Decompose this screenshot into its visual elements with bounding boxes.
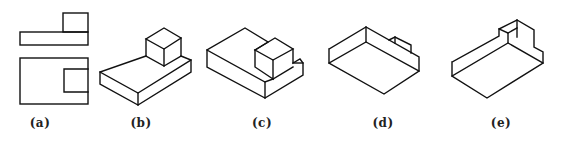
top-view-outline xyxy=(20,58,88,104)
figure-b-label: (b) xyxy=(130,116,151,130)
block-top-face xyxy=(255,38,293,60)
figure-a-drawing xyxy=(20,13,88,104)
figure-c-drawing xyxy=(207,28,303,98)
figure-e-label: (e) xyxy=(491,116,512,130)
block-top-edge xyxy=(508,28,517,33)
top-view-inner-square xyxy=(64,69,88,92)
figure-d-drawing xyxy=(329,27,419,94)
block-inner-edges xyxy=(499,29,508,43)
slab-outline xyxy=(100,56,191,105)
block-right-lower xyxy=(273,67,293,79)
figure-d-label: (d) xyxy=(372,116,393,130)
front-view-base xyxy=(20,32,88,45)
front-view-small-block xyxy=(63,13,88,32)
slab-top-front-edge xyxy=(100,60,191,93)
figures-canvas xyxy=(0,0,561,142)
figure-a-label: (a) xyxy=(30,116,51,130)
figure-b-drawing xyxy=(100,28,191,105)
figure-e-drawing xyxy=(452,20,543,98)
slab-outline xyxy=(452,20,543,98)
slab-outline xyxy=(329,27,419,94)
slab-inner-edges xyxy=(329,42,419,71)
figure-c-label: (c) xyxy=(252,116,272,130)
cube-top-face xyxy=(146,28,181,49)
